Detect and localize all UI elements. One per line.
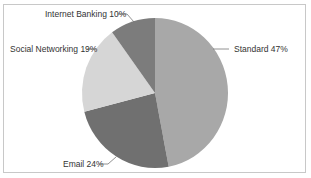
label-internet-banking: Internet Banking 10% xyxy=(45,9,126,19)
label-email: Email 24% xyxy=(63,159,104,169)
label-social-networking: Social Networking 19% xyxy=(10,44,97,54)
slice-standard xyxy=(155,18,228,167)
label-standard: Standard 47% xyxy=(234,44,288,54)
pie-chart xyxy=(0,0,311,178)
